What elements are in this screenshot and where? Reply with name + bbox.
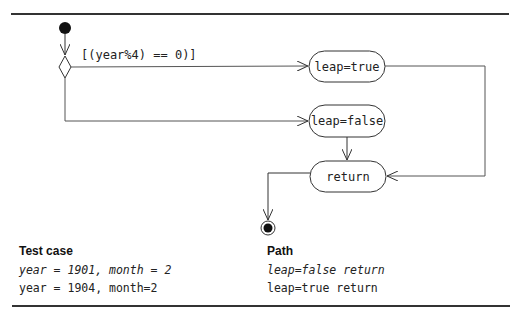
svg-text:return: return — [326, 170, 369, 184]
svg-text:leap=false: leap=false — [311, 114, 383, 128]
test-case-header: Test case — [19, 244, 73, 258]
path-row-2: leap=true return — [267, 281, 378, 295]
initial-node-icon — [59, 22, 71, 34]
test-case-row-1: year = 1901, month = 2 — [19, 263, 171, 277]
svg-text:leap=true: leap=true — [314, 60, 379, 74]
test-case-row-2: year = 1904, month=2 — [19, 281, 157, 295]
path-header: Path — [267, 244, 293, 258]
path-row-1: leap=false return — [267, 263, 385, 277]
decision-diamond-icon — [59, 56, 71, 78]
bottom-rule — [12, 305, 510, 307]
guard-label: [(year%4) == 0)] — [81, 48, 197, 62]
